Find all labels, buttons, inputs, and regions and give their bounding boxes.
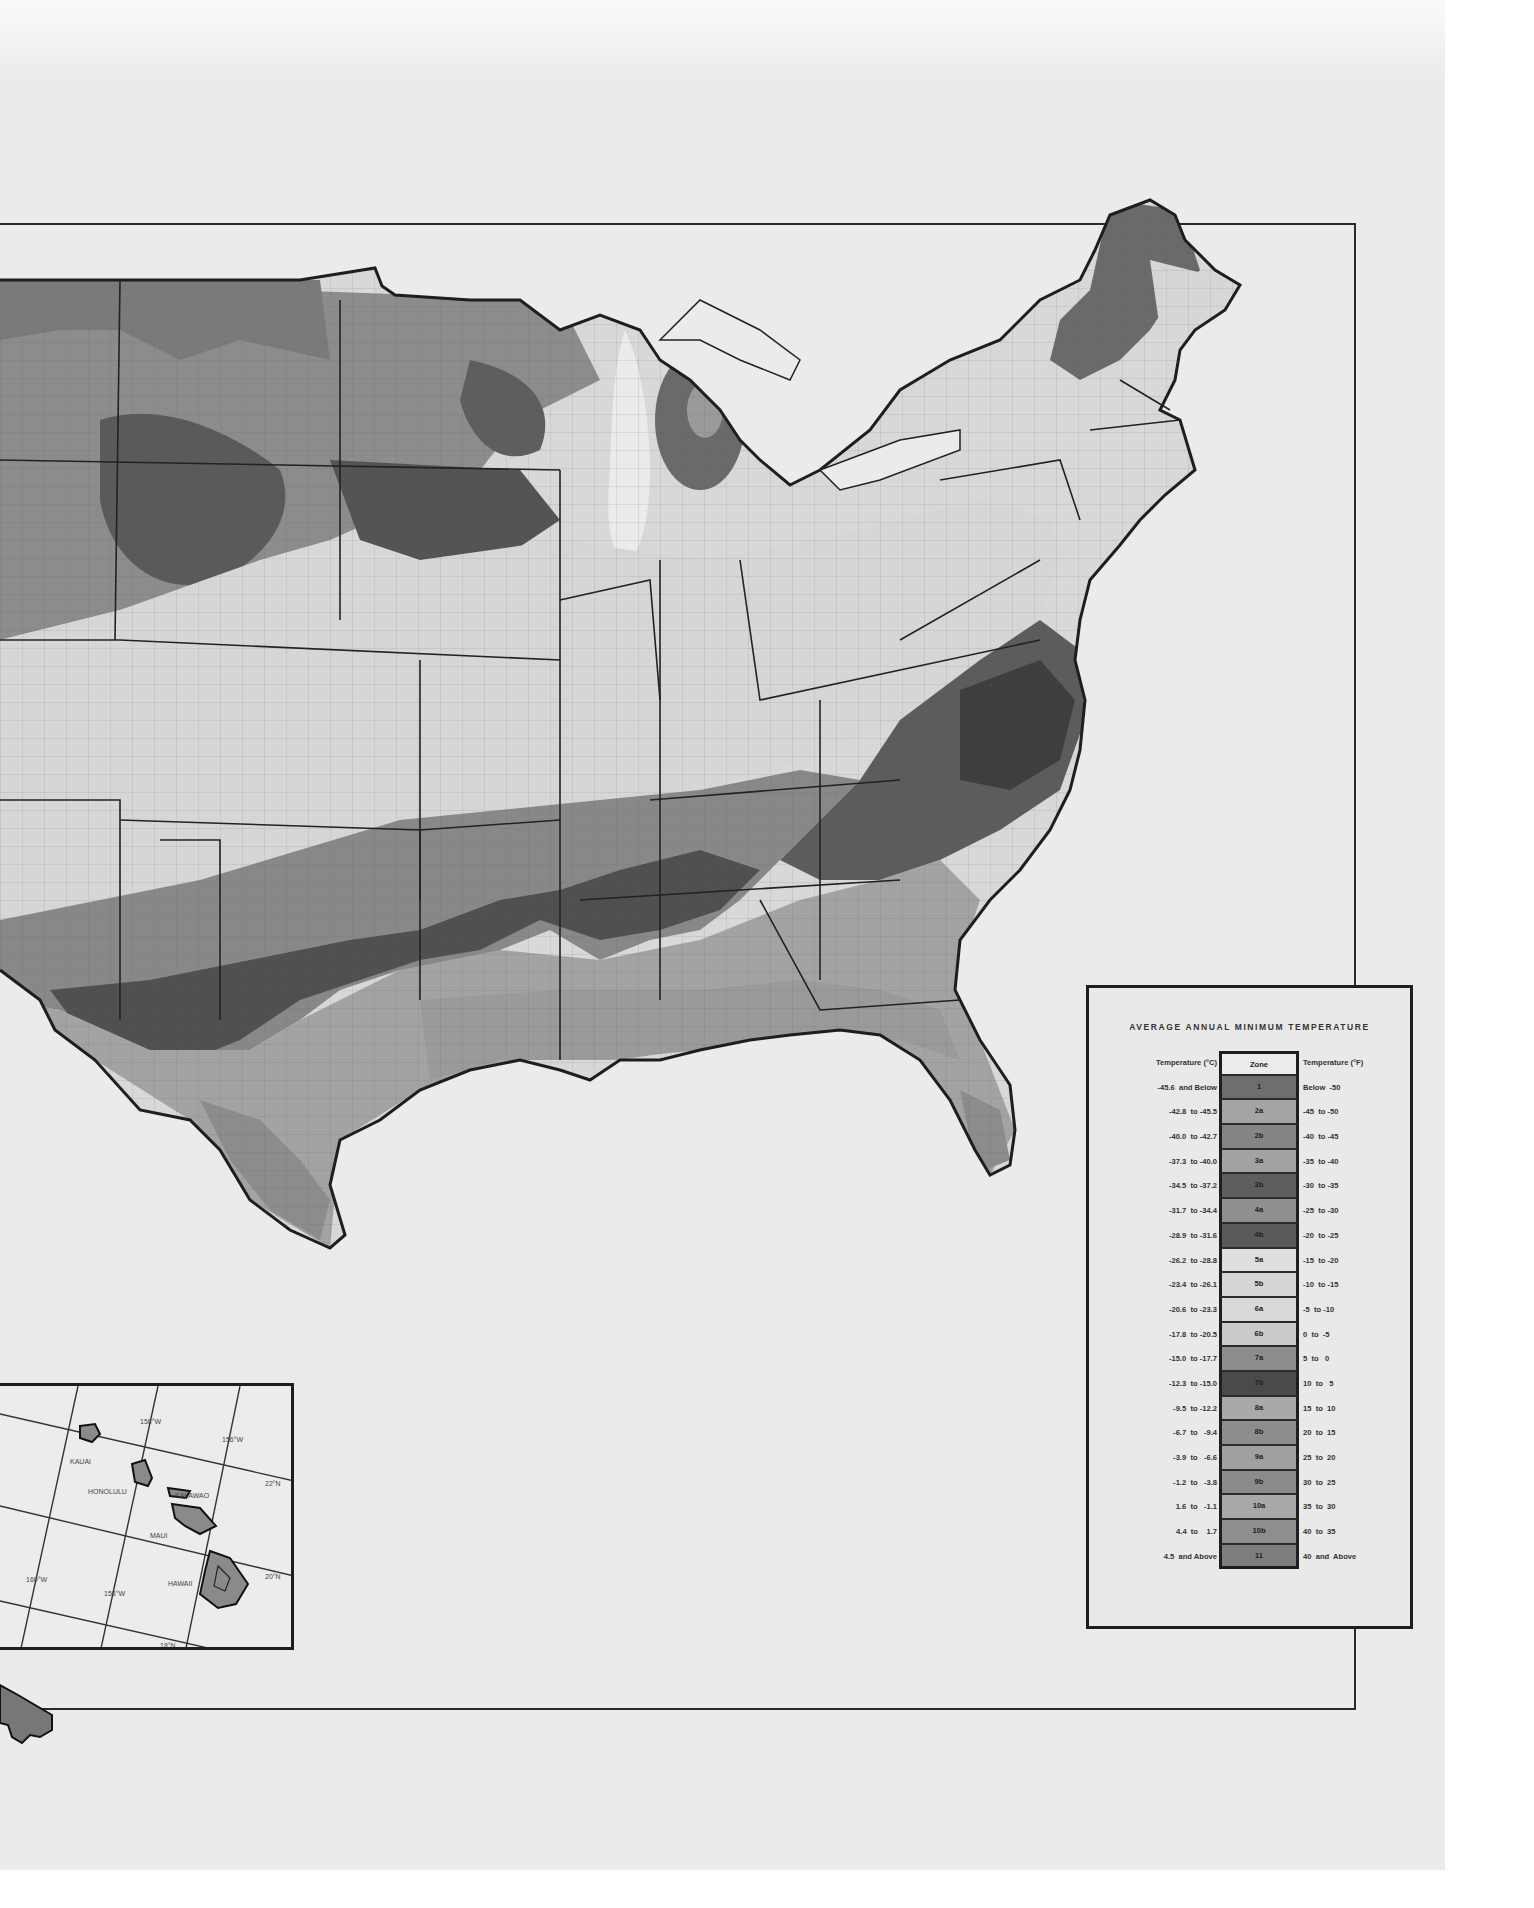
legend-celsius-range: -34.5 to -37.2: [1097, 1181, 1217, 1190]
legend-celsius-range: -31.7 to -34.4: [1097, 1206, 1217, 1215]
legend-celsius-range: -42.8 to -45.5: [1097, 1107, 1217, 1116]
legend-celsius-range: -3.9 to -6.6: [1097, 1453, 1217, 1462]
legend-fahrenheit-range: -30 to -35: [1303, 1181, 1403, 1190]
legend-fahrenheit-range: 10 to 5: [1303, 1379, 1403, 1388]
label-honolulu: HONOLULU: [88, 1488, 127, 1495]
legend-row-zone-5b: -23.4 to -26.15b-10 to -15: [1089, 1273, 1410, 1298]
maui-island: [172, 1504, 216, 1534]
legend-fahrenheit-range: 0 to -5: [1303, 1330, 1403, 1339]
legend-fahrenheit-range: -25 to -30: [1303, 1206, 1403, 1215]
legend-fahrenheit-range: 5 to 0: [1303, 1354, 1403, 1363]
legend-row-zone-11: 4.5 and Above1140 and Above: [1089, 1545, 1410, 1570]
legend-fahrenheit-range: 20 to 15: [1303, 1428, 1403, 1437]
legend-row-zone-9a: -3.9 to -6.69a25 to 20: [1089, 1446, 1410, 1471]
legend-fahrenheit-range: -10 to -15: [1303, 1280, 1403, 1289]
legend-fahrenheit-range: 30 to 25: [1303, 1478, 1403, 1487]
hawaii-inset-graphic: KAUAI HONOLULU KALAWAO MAUI HAWAII 158°W…: [0, 1386, 294, 1650]
grid-label-160w: 160°W: [26, 1576, 47, 1583]
grid-label-18n: 18°N: [160, 1642, 176, 1649]
legend-zone-swatch: 8b: [1219, 1421, 1299, 1446]
legend-fahrenheit-range: -20 to -25: [1303, 1231, 1403, 1240]
legend-fahrenheit-range: -45 to -50: [1303, 1107, 1403, 1116]
legend-header-fahrenheit: Temperature (°F): [1303, 1058, 1403, 1067]
legend-row-zone-1: -45.6 and Below1Below -50: [1089, 1076, 1410, 1101]
label-hawaii: HAWAII: [168, 1580, 192, 1587]
legend-zone-swatch: 11: [1219, 1545, 1299, 1570]
legend-table: Temperature (°C) Zone Temperature (°F) -…: [1089, 1051, 1410, 1569]
legend-fahrenheit-range: Below -50: [1303, 1083, 1403, 1092]
legend-zone-swatch: 8a: [1219, 1397, 1299, 1422]
legend-celsius-range: -40.0 to -42.7: [1097, 1132, 1217, 1141]
legend-row-zone-3a: -37.3 to -40.03a-35 to -40: [1089, 1150, 1410, 1175]
legend-celsius-range: -45.6 and Below: [1097, 1083, 1217, 1092]
legend-zone-swatch: 10b: [1219, 1520, 1299, 1545]
legend-row-zone-4b: -28.9 to -31.64b-20 to -25: [1089, 1224, 1410, 1249]
legend-zone-swatch: 9b: [1219, 1471, 1299, 1496]
paper-top-margin: [0, 0, 1445, 75]
legend-zone-swatch: 1: [1219, 1076, 1299, 1101]
legend-celsius-range: -6.7 to -9.4: [1097, 1428, 1217, 1437]
legend-celsius-range: 4.4 to 1.7: [1097, 1527, 1217, 1536]
legend-row-zone-5a: -26.2 to -28.85a-15 to -20: [1089, 1249, 1410, 1274]
legend-row-zone-8a: -9.5 to -12.28a15 to 10: [1089, 1397, 1410, 1422]
legend-fahrenheit-range: 35 to 30: [1303, 1502, 1403, 1511]
legend-fahrenheit-range: 40 to 35: [1303, 1527, 1403, 1536]
legend-zone-swatch: 6b: [1219, 1323, 1299, 1348]
legend-celsius-range: -26.2 to -28.8: [1097, 1256, 1217, 1265]
legend-zone-swatch: 5b: [1219, 1273, 1299, 1298]
legend-title: AVERAGE ANNUAL MINIMUM TEMPERATURE: [1089, 1022, 1410, 1032]
legend-zone-swatch: 4a: [1219, 1199, 1299, 1224]
legend-row-zone-9b: -1.2 to -3.89b30 to 25: [1089, 1471, 1410, 1496]
map-sheet: KAUAI HONOLULU KALAWAO MAUI HAWAII 158°W…: [0, 0, 1445, 1870]
legend-header-zone: Zone: [1219, 1051, 1299, 1076]
grid-label-22n: 22°N: [265, 1480, 281, 1487]
label-kalawao: KALAWAO: [175, 1492, 210, 1499]
legend-row-zone-6a: -20.6 to -23.36a-5 to -10: [1089, 1298, 1410, 1323]
grid-label-158w: 158°W: [140, 1418, 161, 1425]
legend-row-zone-3b: -34.5 to -37.23b-30 to -35: [1089, 1174, 1410, 1199]
legend-celsius-range: -17.8 to -20.5: [1097, 1330, 1217, 1339]
legend-zone-swatch: 9a: [1219, 1446, 1299, 1471]
legend-fahrenheit-range: 40 and Above: [1303, 1552, 1403, 1561]
legend-celsius-range: -12.3 to -15.0: [1097, 1379, 1217, 1388]
legend-row-zone-8b: -6.7 to -9.48b20 to 15: [1089, 1421, 1410, 1446]
legend-row-zone-6b: -17.8 to -20.56b0 to -5: [1089, 1323, 1410, 1348]
legend-zone-swatch: 10a: [1219, 1495, 1299, 1520]
legend-celsius-range: 1.6 to -1.1: [1097, 1502, 1217, 1511]
legend-rows: -45.6 and Below1Below -50-42.8 to -45.52…: [1089, 1076, 1410, 1570]
legend-zone-swatch: 2b: [1219, 1125, 1299, 1150]
legend-row-zone-7b: -12.3 to -15.07b10 to 5: [1089, 1372, 1410, 1397]
legend-zone-swatch: 3a: [1219, 1150, 1299, 1175]
legend-row-zone-2b: -40.0 to -42.72b-40 to -45: [1089, 1125, 1410, 1150]
legend-header-row: Temperature (°C) Zone Temperature (°F): [1089, 1051, 1410, 1076]
legend-box: AVERAGE ANNUAL MINIMUM TEMPERATURE Tempe…: [1086, 985, 1413, 1629]
legend-zone-swatch: 7b: [1219, 1372, 1299, 1397]
legend-celsius-range: -15.0 to -17.7: [1097, 1354, 1217, 1363]
legend-row-zone-7a: -15.0 to -17.77a5 to 0: [1089, 1347, 1410, 1372]
legend-row-zone-4a: -31.7 to -34.44a-25 to -30: [1089, 1199, 1410, 1224]
legend-celsius-range: -37.3 to -40.0: [1097, 1157, 1217, 1166]
label-maui: MAUI: [150, 1532, 168, 1539]
kauai-island: [80, 1424, 100, 1442]
legend-zone-swatch: 7a: [1219, 1347, 1299, 1372]
legend-fahrenheit-range: -5 to -10: [1303, 1305, 1403, 1314]
legend-fahrenheit-range: 25 to 20: [1303, 1453, 1403, 1462]
legend-zone-swatch: 4b: [1219, 1224, 1299, 1249]
label-kauai: KAUAI: [70, 1458, 91, 1465]
legend-row-zone-10b: 4.4 to 1.710b40 to 35: [1089, 1520, 1410, 1545]
legend-zone-swatch: 6a: [1219, 1298, 1299, 1323]
grid-label-156w: 156°W: [222, 1436, 243, 1443]
legend-zone-swatch: 2a: [1219, 1100, 1299, 1125]
legend-celsius-range: -20.6 to -23.3: [1097, 1305, 1217, 1314]
oahu-island: [132, 1460, 152, 1486]
legend-fahrenheit-range: 15 to 10: [1303, 1404, 1403, 1413]
legend-celsius-range: 4.5 and Above: [1097, 1552, 1217, 1561]
legend-zone-swatch: 5a: [1219, 1249, 1299, 1274]
legend-row-zone-10a: 1.6 to -1.110a35 to 30: [1089, 1495, 1410, 1520]
legend-row-zone-2a: -42.8 to -45.52a-45 to -50: [1089, 1100, 1410, 1125]
legend-celsius-range: -28.9 to -31.6: [1097, 1231, 1217, 1240]
hawaii-inset-map: KAUAI HONOLULU KALAWAO MAUI HAWAII 158°W…: [0, 1383, 294, 1650]
hawaii-island: [200, 1551, 248, 1608]
legend-celsius-range: -1.2 to -3.8: [1097, 1478, 1217, 1487]
legend-zone-swatch: 3b: [1219, 1174, 1299, 1199]
